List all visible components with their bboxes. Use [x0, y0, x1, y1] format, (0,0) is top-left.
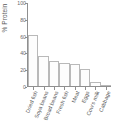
y-axis-tick-labels: 020406080100 — [13, 3, 26, 87]
bar — [70, 64, 80, 86]
y-tick-mark — [25, 87, 27, 88]
bar — [59, 63, 69, 86]
bar — [38, 56, 48, 86]
y-tick-mark — [25, 70, 27, 71]
x-label-cell: Meat — [70, 90, 80, 126]
x-category-label: Meat — [70, 90, 80, 104]
bar — [80, 69, 90, 86]
bar — [28, 35, 38, 86]
x-axis-category-labels: Dried fishSoya beansBroad beansFresh fis… — [28, 90, 111, 126]
bar — [49, 61, 59, 86]
y-tick-mark — [25, 3, 27, 4]
x-label-cell: Fresh fish — [59, 90, 69, 126]
y-tick-mark — [25, 37, 27, 38]
bar-series — [28, 3, 111, 86]
y-axis-title: % Protein — [1, 0, 11, 40]
plot-area — [27, 3, 111, 87]
bar-chart: % Protein 020406080100 Dried fishSoya be… — [0, 0, 119, 126]
bar — [101, 85, 111, 86]
y-tick-mark — [25, 20, 27, 21]
x-label-cell: Cabbage — [101, 90, 111, 126]
bar — [90, 82, 100, 86]
y-tick-mark — [25, 53, 27, 54]
